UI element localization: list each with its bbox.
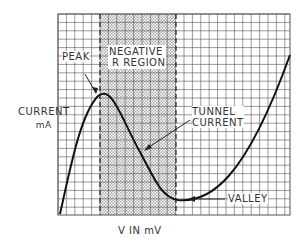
valley-label: VALLEY [228, 193, 268, 204]
current-line1: CURRENT [18, 106, 70, 117]
x-axis-label: V IN mV [118, 225, 162, 236]
negative-line2: R REGION [109, 57, 165, 68]
current-axis-label: CURRENT mA [18, 106, 70, 131]
current-line2: mA [18, 120, 70, 131]
tunnel-line2: CURRENT [192, 117, 244, 128]
tunnel-current-label: TUNNEL CURRENT [192, 106, 244, 128]
tunnel-line1: TUNNEL [192, 106, 244, 117]
negative-region-label: NEGATIVE R REGION [108, 45, 166, 69]
negative-line1: NEGATIVE [109, 46, 165, 57]
peak-label: PEAK [62, 51, 90, 62]
